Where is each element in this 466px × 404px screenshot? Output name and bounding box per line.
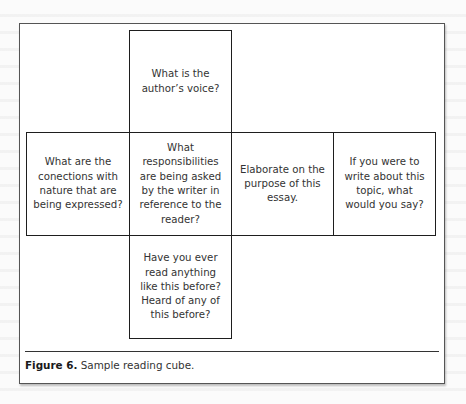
cube-face-top-text: What is the author’s voice? <box>141 67 221 96</box>
cube-face-far-right-text: If you were to write about this topic, w… <box>340 155 430 212</box>
cube-face-left-text: What are the conections with nature that… <box>33 155 123 212</box>
cube-face-top: What is the author’s voice? <box>129 30 232 133</box>
cube-face-bottom-text: Have you ever read anything like this be… <box>136 251 226 322</box>
figure-label: Figure 6. <box>25 359 77 371</box>
caption-divider <box>25 351 439 352</box>
cube-face-far-right: If you were to write about this topic, w… <box>333 132 436 236</box>
cube-face-right-text: Elaborate on the purpose of this essay. <box>240 163 326 206</box>
figure-caption: Figure 6. Sample reading cube. <box>25 359 194 371</box>
cube-face-bottom: Have you ever read anything like this be… <box>129 235 232 339</box>
cube-face-center: What responsibilities are being asked by… <box>129 132 232 236</box>
cube-face-right: Elaborate on the purpose of this essay. <box>231 132 334 236</box>
cube-face-center-text: What responsibilities are being asked by… <box>134 141 227 227</box>
figure-caption-text: Sample reading cube. <box>77 359 194 371</box>
cube-face-left: What are the conections with nature that… <box>26 132 130 236</box>
